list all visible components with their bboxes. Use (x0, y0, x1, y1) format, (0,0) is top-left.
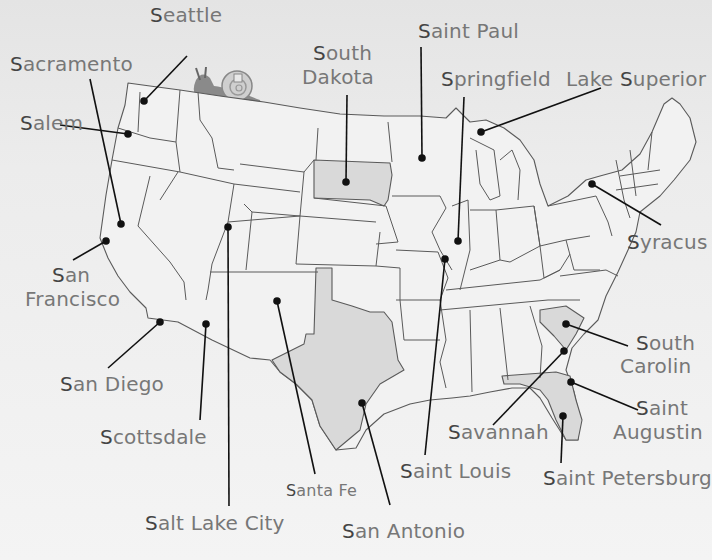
label-text: aint Paul (431, 19, 519, 43)
label-scottsdale: Scottsdale (100, 426, 207, 448)
label-initial: S (448, 420, 461, 444)
label-san-francisco-1: San (52, 264, 90, 286)
leader-line-saint-paul (421, 47, 422, 158)
label-text: Francisco (25, 287, 120, 311)
label-san-diego: San Diego (60, 373, 164, 395)
label-initial: S (620, 67, 633, 91)
label-text: aint Petersburg (556, 466, 712, 490)
location-dot-seattle (140, 97, 148, 105)
label-santa-fe: Santa Fe (286, 480, 357, 502)
label-text: an (65, 263, 90, 287)
label-initial: S (627, 230, 640, 254)
label-saint-augustine-1: Saint (636, 397, 688, 419)
label-initial: S (100, 425, 113, 449)
label-initial: S (52, 263, 65, 287)
location-dot-san-francisco (102, 237, 110, 245)
label-text: aint (649, 396, 688, 420)
label-initial: S (20, 111, 33, 135)
label-san-antonio: San Antonio (342, 520, 465, 542)
label-text: Lake (566, 67, 620, 91)
location-dot-springfield (454, 237, 462, 245)
label-south-carolina-1: South (636, 332, 695, 354)
label-text: aint Louis (413, 459, 511, 483)
label-initial: S (313, 41, 326, 65)
label-text: eattle (163, 3, 222, 27)
leader-line-south-dakota (346, 95, 347, 182)
label-syracuse: Syracus (627, 231, 708, 253)
label-initial: S (342, 519, 355, 543)
label-saint-paul: Saint Paul (418, 20, 519, 42)
location-dot-saint-augustine (567, 378, 575, 386)
label-initial: S (418, 19, 431, 43)
location-dot-south-carolina (562, 320, 570, 328)
label-lake-superior: Lake Superior (566, 68, 706, 90)
label-south-carolina-2: Carolin (620, 355, 691, 377)
location-dot-san-diego (156, 318, 164, 326)
label-salt-lake-city: Salt Lake City (145, 512, 285, 534)
label-text: avannah (461, 420, 549, 444)
location-dot-saint-petersburg (559, 412, 567, 420)
label-text: an Antonio (355, 519, 465, 543)
label-initial: S (543, 466, 556, 490)
label-salem: Salem (20, 112, 83, 134)
label-initial: S (636, 331, 649, 355)
location-dot-sacramento (117, 220, 125, 228)
label-saint-petersburg: Saint Petersburg (543, 467, 712, 489)
label-initial: S (10, 52, 23, 76)
location-dot-salem (124, 130, 132, 138)
label-seattle: Seattle (150, 4, 222, 26)
label-text: Carolin (620, 354, 691, 378)
location-dot-salt-lake-city (224, 223, 232, 231)
leader-line-scottsdale (200, 324, 206, 420)
label-text: yracus (640, 230, 708, 254)
label-text: anta Fe (296, 481, 357, 500)
label-sacramento: Sacramento (10, 53, 133, 75)
leader-line-saint-augustine (571, 382, 638, 410)
label-text: cottsdale (113, 425, 207, 449)
location-dot-san-antonio (358, 399, 366, 407)
leader-line-san-francisco (73, 241, 106, 260)
label-initial: S (145, 511, 158, 535)
label-saint-augustine-2: Augustin (613, 421, 703, 443)
label-initial: S (60, 372, 73, 396)
label-text: outh (326, 41, 372, 65)
location-dot-south-dakota (342, 178, 350, 186)
leader-line-salt-lake-city (228, 227, 229, 506)
label-text: Dakota (302, 65, 374, 89)
label-initial: S (150, 3, 163, 27)
label-south-dakota-1: South (313, 42, 372, 64)
us-outline (100, 83, 696, 450)
label-text: acramento (23, 52, 133, 76)
label-savannah: Savannah (448, 421, 549, 443)
label-initial: S (400, 459, 413, 483)
leader-line-san-diego (108, 322, 160, 368)
location-dot-santa-fe (273, 297, 281, 305)
label-initial: S (636, 396, 649, 420)
label-text: Augustin (613, 420, 703, 444)
location-dot-savannah (560, 347, 568, 355)
label-springfield: Springfield (441, 68, 551, 90)
location-dot-scottsdale (202, 320, 210, 328)
label-initial: S (441, 67, 454, 91)
label-saint-louis: Saint Louis (400, 460, 511, 482)
label-text: an Diego (73, 372, 164, 396)
label-text: alt Lake City (158, 511, 285, 535)
label-text: uperior (633, 67, 706, 91)
location-dot-saint-paul (418, 154, 426, 162)
location-dot-syracuse (588, 180, 596, 188)
label-text: pringfield (454, 67, 551, 91)
location-dot-saint-louis (441, 255, 449, 263)
label-text: outh (649, 331, 695, 355)
label-south-dakota-2: Dakota (302, 66, 374, 88)
label-text: alem (33, 111, 83, 135)
label-initial: S (286, 481, 296, 500)
location-dot-lake-superior (477, 128, 485, 136)
leader-line-lake-superior (481, 88, 601, 132)
label-san-francisco-2: Francisco (25, 288, 120, 310)
